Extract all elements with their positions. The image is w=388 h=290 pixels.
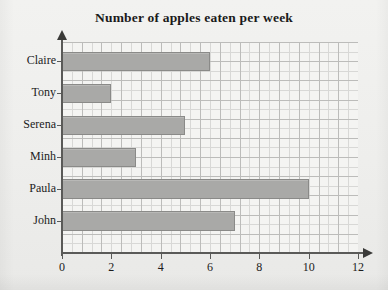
y-axis-arrow-icon: [57, 30, 67, 40]
y-axis-label-tony: Tony: [32, 85, 57, 100]
y-axis-label-minh: Minh: [30, 149, 56, 164]
y-axis-tick: [57, 125, 62, 126]
bar-row: [62, 148, 358, 167]
x-axis-label-4: 4: [158, 260, 164, 275]
bar-row: [62, 211, 358, 230]
y-axis-tick: [57, 189, 62, 190]
y-axis-tick: [57, 157, 62, 158]
chart-title: Number of apples eaten per week: [0, 10, 388, 26]
bar-tony: [62, 84, 111, 103]
x-axis-arrow-icon: [363, 248, 373, 258]
x-axis-tick: [161, 253, 162, 259]
x-axis-tick: [62, 253, 63, 259]
x-axis-tick: [358, 253, 359, 259]
x-axis-tick: [111, 253, 112, 259]
bars-layer: [62, 42, 358, 253]
bar-serena: [62, 116, 185, 135]
x-axis-label-6: 6: [207, 260, 213, 275]
x-axis-label-12: 12: [352, 260, 364, 275]
x-axis-label-10: 10: [303, 260, 315, 275]
x-axis-label-0: 0: [59, 260, 65, 275]
y-axis-label-claire: Claire: [27, 53, 56, 68]
y-axis-label-paula: Paula: [29, 181, 56, 196]
y-axis-label-john: John: [33, 213, 56, 228]
x-axis-line: [62, 252, 365, 254]
bar-row: [62, 116, 358, 135]
bar-row: [62, 52, 358, 71]
bar-john: [62, 211, 235, 230]
y-axis-label-serena: Serena: [23, 117, 56, 132]
x-axis-label-8: 8: [256, 260, 262, 275]
x-axis-label-2: 2: [108, 260, 114, 275]
bar-row: [62, 179, 358, 198]
bar-paula: [62, 179, 309, 198]
y-axis-tick: [57, 61, 62, 62]
bar-row: [62, 84, 358, 103]
y-axis-line: [61, 38, 63, 256]
x-axis-tick: [259, 253, 260, 259]
bar-claire: [62, 52, 210, 71]
y-axis-tick: [57, 93, 62, 94]
x-axis-tick: [309, 253, 310, 259]
plot-area: [62, 42, 358, 253]
x-axis-tick: [210, 253, 211, 259]
bar-chart-figure: Number of apples eaten per week 02468101…: [0, 0, 388, 290]
bar-minh: [62, 148, 136, 167]
y-axis-tick: [57, 221, 62, 222]
